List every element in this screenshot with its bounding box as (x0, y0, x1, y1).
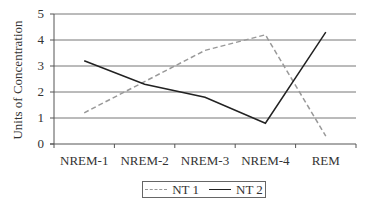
y-axis-title: Units of Concentration (10, 20, 25, 140)
line-chart: 012345 NREM-1NREM-2NREM-3NREM-4REM Units… (0, 0, 378, 208)
series-line-nt2 (84, 32, 326, 123)
y-tick-label: 0 (38, 136, 45, 151)
y-tick-label: 1 (38, 110, 45, 125)
x-axis-ticks: NREM-1NREM-2NREM-3NREM-4REM (60, 144, 356, 168)
y-tick-label: 5 (38, 6, 45, 21)
legend: NT 1 NT 2 (142, 181, 266, 198)
legend-item-nt1: NT 1 (145, 182, 199, 198)
y-tick-label: 2 (38, 84, 45, 99)
dashed-line-swatch-icon (145, 189, 167, 190)
x-tick-label: NREM-3 (181, 153, 229, 168)
x-tick-label: REM (312, 153, 341, 168)
x-tick-label: NREM-4 (241, 153, 290, 168)
y-axis-ticks: 012345 (38, 6, 55, 151)
legend-item-nt2: NT 2 (209, 182, 263, 198)
x-tick-label: NREM-2 (120, 153, 168, 168)
y-tick-label: 4 (38, 32, 45, 47)
legend-label: NT 1 (172, 182, 199, 198)
solid-line-swatch-icon (209, 189, 231, 190)
x-tick-label: NREM-1 (60, 153, 108, 168)
y-tick-label: 3 (38, 58, 45, 73)
legend-label: NT 2 (236, 182, 263, 198)
series-lines (84, 32, 326, 136)
